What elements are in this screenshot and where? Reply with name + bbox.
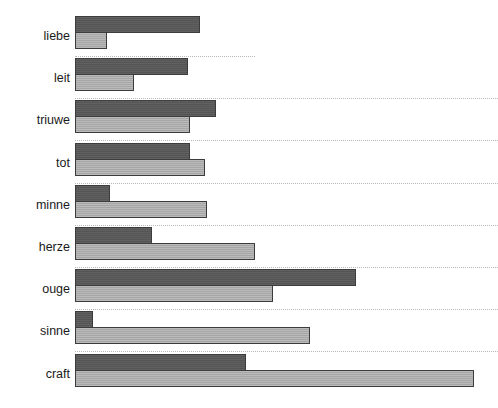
bar-light-sinne bbox=[75, 327, 310, 344]
row-separator bbox=[75, 98, 498, 99]
row-separator bbox=[75, 225, 498, 226]
row-bars bbox=[75, 185, 207, 218]
row-bars bbox=[75, 227, 255, 260]
row-bars bbox=[75, 354, 474, 387]
row-label-leit: leit bbox=[0, 72, 70, 85]
bar-dark-tot bbox=[75, 143, 190, 160]
bar-dark-liebe bbox=[75, 16, 200, 33]
bar-light-craft bbox=[75, 370, 474, 387]
bar-light-ouge bbox=[75, 285, 273, 302]
row-label-liebe: liebe bbox=[0, 30, 70, 43]
row-label-herze: herze bbox=[0, 241, 70, 254]
bar-light-minne bbox=[75, 201, 207, 218]
row-bars bbox=[75, 16, 200, 49]
bar-chart: liebeleittriuwetotminneherzeougesinnecra… bbox=[0, 0, 498, 408]
bar-dark-sinne bbox=[75, 311, 93, 328]
row-bars bbox=[75, 100, 216, 133]
bar-dark-triuwe bbox=[75, 100, 216, 117]
row-separator bbox=[75, 56, 255, 57]
bar-light-tot bbox=[75, 159, 205, 176]
bar-dark-leit bbox=[75, 58, 188, 75]
row-separator bbox=[75, 351, 498, 352]
row-label-craft: craft bbox=[0, 368, 70, 381]
row-separator bbox=[75, 309, 498, 310]
row-separator bbox=[75, 140, 498, 141]
bar-light-herze bbox=[75, 243, 255, 260]
row-bars bbox=[75, 269, 356, 302]
row-label-ouge: ouge bbox=[0, 283, 70, 296]
row-label-tot: tot bbox=[0, 157, 70, 170]
row-label-triuwe: triuwe bbox=[0, 114, 70, 127]
row-label-sinne: sinne bbox=[0, 325, 70, 338]
row-separator bbox=[75, 267, 498, 268]
row-separator bbox=[75, 183, 498, 184]
row-bars bbox=[75, 311, 310, 344]
bar-dark-ouge bbox=[75, 269, 356, 286]
bar-dark-herze bbox=[75, 227, 152, 244]
row-bars bbox=[75, 143, 205, 176]
bar-light-liebe bbox=[75, 32, 107, 49]
row-label-minne: minne bbox=[0, 199, 70, 212]
bar-dark-minne bbox=[75, 185, 110, 202]
bar-light-triuwe bbox=[75, 116, 190, 133]
bar-light-leit bbox=[75, 74, 134, 91]
bar-dark-craft bbox=[75, 354, 246, 371]
row-bars bbox=[75, 58, 188, 91]
